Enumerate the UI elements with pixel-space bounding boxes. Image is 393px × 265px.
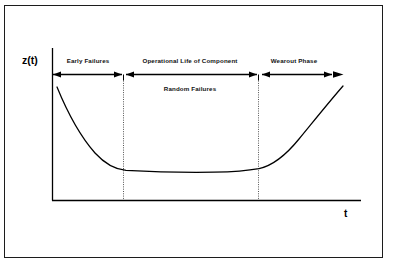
hazard-rate-curve-group	[57, 86, 343, 172]
bathtub-curve-figure: z(t) t Early Failures Operational Life o…	[0, 0, 393, 265]
phase-label-operational-life: Operational Life of Component	[142, 57, 237, 64]
phase-divider-group	[124, 76, 259, 200]
phase-label-early-failures: Early Failures	[67, 57, 110, 64]
plot-canvas	[0, 0, 393, 265]
phase-label-wearout-phase: Wearout Phase	[271, 57, 318, 64]
annotation-random-failures: Random Failures	[164, 85, 216, 92]
span-arrow-terminal-arrowhead	[333, 71, 344, 77]
axes-group	[52, 48, 361, 201]
x-axis-label: t	[344, 208, 347, 219]
phase-span-arrows	[53, 71, 344, 80]
y-axis-label: z(t)	[22, 54, 38, 66]
hazard-rate-curve	[57, 86, 343, 172]
